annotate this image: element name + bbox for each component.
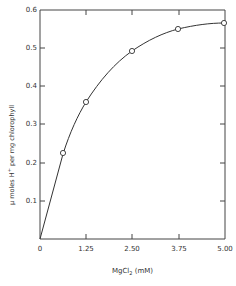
x-tick-labels: 0 1.25 2.50 3.75 5.00 <box>38 245 233 253</box>
y-tick-label: 0.3 <box>26 120 37 128</box>
x-axis-label: MgCl2 (mM) <box>112 267 153 276</box>
y-axis-label: µ moles H+ per mg chlorophyll <box>6 105 16 205</box>
y-tick-labels: 0.1 0.2 0.3 0.4 0.5 0.6 <box>26 6 38 205</box>
data-points <box>60 20 226 155</box>
plot-frame <box>40 10 225 239</box>
y-tick-label: 0.6 <box>26 6 38 14</box>
y-tick-label: 0.4 <box>26 82 38 90</box>
x-tick-label: 0 <box>38 245 42 253</box>
x-tick-label: 5.00 <box>217 245 233 253</box>
y-ticks <box>40 48 225 201</box>
x-tick-label: 3.75 <box>171 245 187 253</box>
x-ticks <box>86 10 179 239</box>
y-tick-label: 0.1 <box>26 197 37 205</box>
y-tick-label: 0.2 <box>26 159 37 167</box>
x-tick-label: 1.25 <box>78 245 94 253</box>
fit-curve <box>40 23 224 239</box>
y-tick-label: 0.5 <box>26 44 37 52</box>
x-tick-label: 2.50 <box>124 245 140 253</box>
chart: 0.1 0.2 0.3 0.4 0.5 0.6 0 1.25 2.50 3.75… <box>0 0 236 286</box>
